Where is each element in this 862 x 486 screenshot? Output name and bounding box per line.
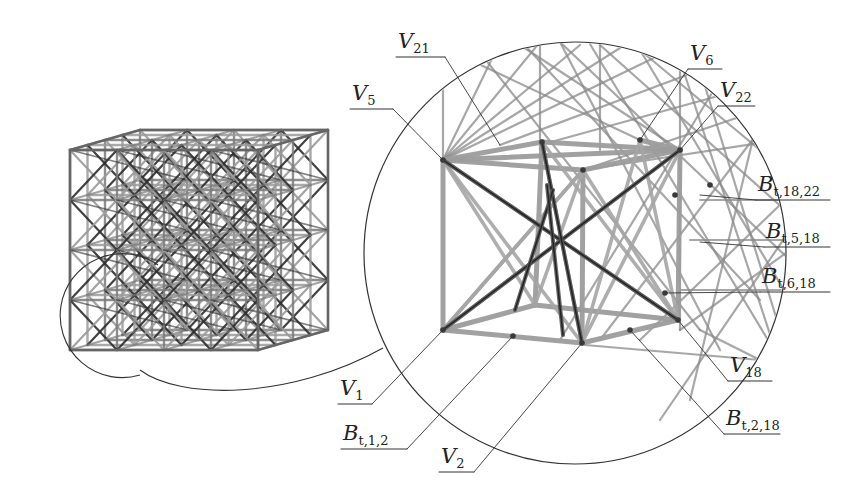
lattice-cube xyxy=(70,130,328,350)
svg-text:V21: V21 xyxy=(398,29,430,56)
svg-text:Bt,18,22: Bt,18,22 xyxy=(757,172,820,199)
label-bt2_18: Bt,2,18 xyxy=(630,330,780,434)
svg-text:Bt,2,18: Bt,2,18 xyxy=(725,406,780,433)
label-bt1_2: Bt,1,2 xyxy=(341,336,513,449)
svg-text:V22: V22 xyxy=(720,78,752,105)
svg-text:Bt,5,18: Bt,5,18 xyxy=(765,219,820,246)
svg-text:Bt,1,2: Bt,1,2 xyxy=(342,421,388,448)
svg-text:V5: V5 xyxy=(352,81,375,108)
magnifier-circle xyxy=(364,42,786,464)
label-v2: V2 xyxy=(439,343,582,472)
label-v1: V1 xyxy=(338,330,443,404)
svg-text:Bt,6,18: Bt,6,18 xyxy=(761,264,816,291)
svg-text:V2: V2 xyxy=(441,444,464,471)
label-v5: V5 xyxy=(350,81,443,160)
label-bt18_22: Bt,18,22 xyxy=(700,172,830,200)
lattice-diagram: V21V5V6V22Bt,18,22Bt,5,18Bt,6,18V18Bt,2,… xyxy=(0,0,862,486)
diagram-canvas: V21V5V6V22Bt,18,22Bt,5,18Bt,6,18V18Bt,2,… xyxy=(0,0,862,486)
svg-text:V6: V6 xyxy=(690,41,713,68)
svg-text:V1: V1 xyxy=(340,376,363,403)
svg-text:V18: V18 xyxy=(730,353,762,380)
label-bt5_18: Bt,5,18 xyxy=(700,219,830,247)
